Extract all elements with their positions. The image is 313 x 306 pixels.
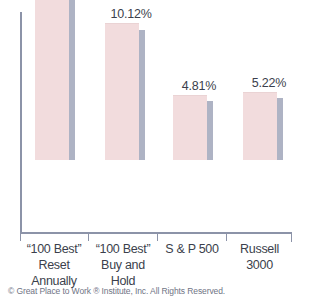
category-label-line: “100 Best” xyxy=(89,241,157,257)
category-label-line: Reset xyxy=(20,257,88,273)
bar-value-label: 10.12% xyxy=(102,7,160,21)
category-label-line: Buy and xyxy=(89,257,157,273)
category-label-line: Russell xyxy=(227,241,292,257)
bar-body xyxy=(105,23,139,160)
category-label-0: “100 Best” Reset Annually xyxy=(20,241,88,289)
x-axis-tick xyxy=(157,234,158,241)
category-label-line: 3000 xyxy=(227,257,292,273)
category-label-line: S & P 500 xyxy=(158,241,226,257)
category-label-1: “100 Best” Buy and Hold xyxy=(89,241,157,289)
bar-value-label: 4.81% xyxy=(170,79,228,93)
plot-area: 14.75% 10.12% 4.81% 5.22% xyxy=(0,0,313,234)
x-axis-tick xyxy=(20,234,21,241)
category-label-2: S & P 500 xyxy=(158,241,226,257)
x-axis-line xyxy=(20,232,292,234)
category-label-line: “100 Best” xyxy=(20,241,88,257)
bar-value-label: 5.22% xyxy=(240,76,298,90)
copyright-notice: © Great Place to Work ® Institute, Inc. … xyxy=(8,286,225,296)
bar-side-face xyxy=(277,98,283,160)
bar-chart: 14.75% 10.12% 4.81% 5.22% “100 Best xyxy=(0,0,313,306)
bar-body xyxy=(173,95,207,160)
bar-body xyxy=(243,92,277,160)
x-axis-tick xyxy=(88,234,89,241)
bar-side-face xyxy=(139,30,145,160)
category-label-3: Russell 3000 xyxy=(227,241,292,273)
bar-side-face xyxy=(69,0,75,160)
bar-side-face xyxy=(207,101,213,160)
bar-body xyxy=(35,0,69,160)
y-axis-line xyxy=(20,12,22,233)
x-axis-tick xyxy=(226,234,227,241)
